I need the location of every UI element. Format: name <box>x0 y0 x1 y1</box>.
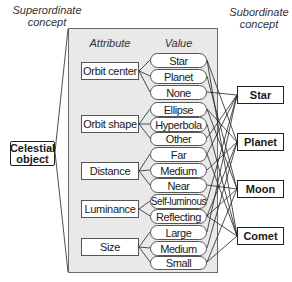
value-small[interactable]: Small <box>150 256 207 270</box>
subordinate-star[interactable]: Star <box>237 86 284 104</box>
value-self-luminous[interactable]: Self-luminous <box>150 194 207 209</box>
value-planet[interactable]: Planet <box>150 69 207 84</box>
value-other[interactable]: Other <box>150 132 207 146</box>
attribute-luminance[interactable]: Luminance <box>81 200 139 218</box>
attribute-size[interactable]: Size <box>81 238 139 256</box>
subordinate-comet[interactable]: Comet <box>237 227 284 245</box>
attribute-distance[interactable]: Distance <box>81 162 139 180</box>
value-hyperbola[interactable]: Hyperbola <box>150 117 207 132</box>
subordinate-moon[interactable]: Moon <box>237 180 284 198</box>
root-concept-celestial-object[interactable]: Celestial object <box>10 141 55 166</box>
value-none[interactable]: None <box>150 85 207 100</box>
value-star[interactable]: Star <box>150 53 207 68</box>
subordinate-planet[interactable]: Planet <box>237 133 284 151</box>
value-medium-size[interactable]: Medium <box>150 241 207 256</box>
attribute-orbit-center[interactable]: Orbit center <box>81 62 139 80</box>
value-medium-distance[interactable]: Medium <box>150 163 207 178</box>
value-large[interactable]: Large <box>150 225 207 240</box>
root-label-line1: Celestial <box>10 143 55 154</box>
value-reflecting[interactable]: Reflecting <box>150 209 207 224</box>
root-label-line2: object <box>10 154 55 165</box>
attribute-orbit-shape[interactable]: Orbit shape <box>81 115 139 133</box>
value-near[interactable]: Near <box>150 178 207 193</box>
value-far[interactable]: Far <box>150 147 207 162</box>
value-ellipse[interactable]: Ellipse <box>150 102 207 117</box>
